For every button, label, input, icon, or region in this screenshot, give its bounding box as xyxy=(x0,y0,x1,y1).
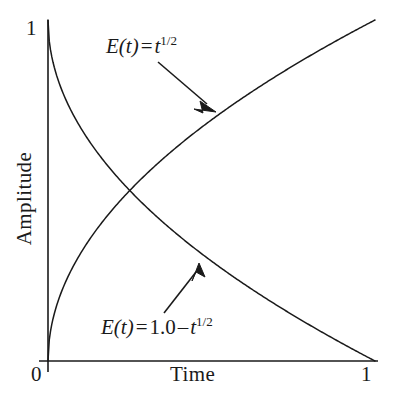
annotation-arrow-falling xyxy=(164,263,205,313)
annot-falling-equals: = xyxy=(134,315,150,339)
annot-falling-arg: (t) xyxy=(114,315,134,339)
curve-falling-one-minus-sqrt xyxy=(48,20,375,361)
annot-rising-func: E xyxy=(106,34,119,58)
annot-rising-exponent: 1/2 xyxy=(160,33,177,48)
x-axis-tick-max: 1 xyxy=(361,364,372,385)
plot-figure: 1 0 1 Time Amplitude E(t)=t1/2 E(t)=1.0–… xyxy=(0,0,395,401)
annot-falling-constant: 1.0 xyxy=(150,315,176,339)
annot-falling-minus: – xyxy=(176,315,191,339)
chart-canvas xyxy=(0,0,395,401)
annot-rising-equals: = xyxy=(139,34,155,58)
annotation-label-rising: E(t)=t1/2 xyxy=(106,36,177,57)
annotation-label-falling: E(t)=1.0–t1/2 xyxy=(101,317,213,338)
y-axis-tick-max: 1 xyxy=(26,18,37,39)
annotation-arrow-rising xyxy=(158,62,216,113)
curve-rising-sqrt xyxy=(48,20,375,361)
annot-falling-exponent: 1/2 xyxy=(196,314,213,329)
x-axis-title: Time xyxy=(170,364,215,385)
y-axis-title: Amplitude xyxy=(14,149,35,249)
annot-rising-arg: (t) xyxy=(119,34,139,58)
x-axis-tick-min: 0 xyxy=(31,364,42,385)
annot-falling-func: E xyxy=(101,315,114,339)
